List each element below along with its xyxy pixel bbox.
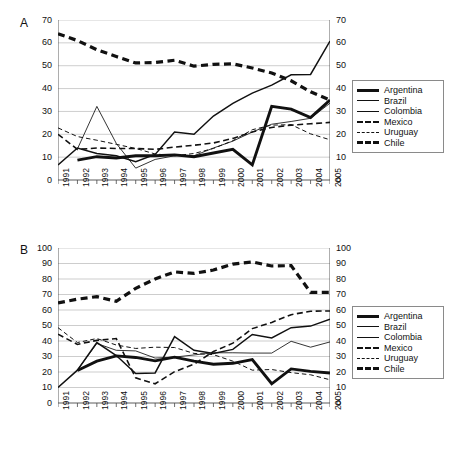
- legend-item-brazil[interactable]: Brazil: [357, 322, 438, 333]
- x-tick-label: 1997: [179, 168, 188, 187]
- x-tick-label: 1993: [101, 168, 110, 187]
- legend-item-chile[interactable]: Chile: [357, 138, 438, 149]
- series-line-uruguay: [58, 125, 330, 156]
- legend-item-label: Uruguay: [384, 353, 418, 363]
- y-tick-label-left: 50: [22, 61, 52, 70]
- y-tick-label-left: 90: [22, 259, 52, 268]
- x-tick-label: 1999: [218, 168, 227, 187]
- legend-item-colombia[interactable]: Colombia: [357, 106, 438, 117]
- y-tick-label-left: 30: [22, 352, 52, 361]
- legend-item-label: Brazil: [384, 96, 407, 106]
- x-tick-label: 2002: [276, 391, 285, 410]
- x-tick-label: 2001: [256, 168, 265, 187]
- x-tick-label: 2003: [295, 391, 304, 410]
- legend-swatch-icon: [357, 106, 379, 116]
- legend-swatch-icon: [357, 117, 379, 127]
- x-tick-label: 1994: [120, 391, 129, 410]
- x-tick-label: 2004: [315, 168, 324, 187]
- legend-swatch-icon: [357, 138, 379, 148]
- x-tick-label: 1999: [218, 391, 227, 410]
- legend-swatch-icon: [357, 364, 379, 374]
- legend-swatch-icon: [357, 85, 379, 95]
- y-tick-label-right: 10: [336, 153, 366, 162]
- legend-item-argentina[interactable]: Argentina: [357, 311, 438, 322]
- series-line-mexico: [58, 311, 330, 384]
- series-line-brazil: [58, 41, 330, 165]
- x-tick-label: 1996: [159, 391, 168, 410]
- panel-b-svg: [58, 248, 330, 409]
- legend-item-argentina[interactable]: Argentina: [357, 85, 438, 96]
- x-tick-label: 1991: [62, 391, 71, 410]
- y-tick-label-left: 100: [22, 244, 52, 253]
- y-tick-label-right: 60: [336, 38, 366, 47]
- x-tick-label: 2000: [237, 391, 246, 410]
- y-tick-label-right: 80: [336, 275, 366, 284]
- x-tick-label: 2003: [295, 168, 304, 187]
- x-tick-label: 1992: [82, 168, 91, 187]
- y-tick-label-right: 70: [336, 290, 366, 299]
- x-tick-label: 1995: [140, 391, 149, 410]
- x-tick-label: 1992: [82, 391, 91, 410]
- legend-item-chile[interactable]: Chile: [357, 364, 438, 375]
- panel-a-legend: ArgentinaBrazilColombiaMexicoUruguayChil…: [352, 80, 444, 153]
- legend-swatch-icon: [357, 127, 379, 137]
- legend-swatch-icon: [357, 322, 379, 332]
- y-tick-label-left: 80: [22, 275, 52, 284]
- y-tick-label-left: 0: [22, 176, 52, 185]
- y-tick-label-left: 60: [22, 38, 52, 47]
- legend-item-label: Mexico: [384, 343, 413, 353]
- legend-item-label: Brazil: [384, 322, 407, 332]
- series-line-mexico: [58, 122, 330, 149]
- y-tick-label-left: 50: [22, 321, 52, 330]
- x-tick-label: 2004: [315, 391, 324, 410]
- y-tick-label-left: 70: [22, 16, 52, 25]
- legend-item-colombia[interactable]: Colombia: [357, 332, 438, 343]
- x-tick-label: 1991: [62, 168, 71, 187]
- legend-item-label: Uruguay: [384, 127, 418, 137]
- y-tick-label-left: 30: [22, 107, 52, 116]
- x-tick-label: 1998: [198, 391, 207, 410]
- legend-item-uruguay[interactable]: Uruguay: [357, 353, 438, 364]
- legend-item-label: Colombia: [384, 106, 422, 116]
- figure-root: A 010203040506070 010203040506070 199119…: [0, 0, 452, 455]
- legend-swatch-icon: [357, 332, 379, 342]
- y-tick-label-left: 20: [22, 368, 52, 377]
- y-tick-label-right: 100: [336, 244, 366, 253]
- x-tick-label: 1995: [140, 168, 149, 187]
- panel-b: B 0102030405060708090100 010203040506070…: [0, 228, 452, 453]
- y-tick-label-left: 20: [22, 130, 52, 139]
- panel-b-legend: ArgentinaBrazilColombiaMexicoUruguayChil…: [352, 306, 444, 379]
- legend-item-brazil[interactable]: Brazil: [357, 96, 438, 107]
- y-tick-label-left: 10: [22, 153, 52, 162]
- legend-item-uruguay[interactable]: Uruguay: [357, 127, 438, 138]
- panel-b-plot-area: [58, 248, 330, 403]
- x-tick-label: 2005: [334, 168, 343, 187]
- x-tick-label: 1994: [120, 168, 129, 187]
- x-tick-label: 1998: [198, 168, 207, 187]
- series-line-argentina: [77, 356, 330, 384]
- legend-swatch-icon: [357, 311, 379, 321]
- x-tick-label: 1997: [179, 391, 188, 410]
- legend-item-label: Chile: [384, 138, 405, 148]
- legend-item-label: Argentina: [384, 311, 423, 321]
- legend-swatch-icon: [357, 353, 379, 363]
- legend-item-mexico[interactable]: Mexico: [357, 343, 438, 354]
- legend-item-label: Mexico: [384, 117, 413, 127]
- legend-item-label: Colombia: [384, 332, 422, 342]
- x-tick-label: 2002: [276, 168, 285, 187]
- x-tick-label: 2005: [334, 391, 343, 410]
- legend-item-label: Chile: [384, 364, 405, 374]
- y-tick-label-left: 40: [22, 337, 52, 346]
- y-tick-label-right: 70: [336, 16, 366, 25]
- x-tick-label: 2001: [256, 391, 265, 410]
- y-tick-label-left: 0: [22, 399, 52, 408]
- x-tick-label: 1996: [159, 168, 168, 187]
- legend-swatch-icon: [357, 96, 379, 106]
- legend-swatch-icon: [357, 343, 379, 353]
- y-tick-label-right: 90: [336, 259, 366, 268]
- x-tick-label: 2000: [237, 168, 246, 187]
- panel-a: A 010203040506070 010203040506070 199119…: [0, 2, 452, 227]
- y-tick-label-right: 50: [336, 61, 366, 70]
- x-tick-label: 1993: [101, 391, 110, 410]
- legend-item-mexico[interactable]: Mexico: [357, 117, 438, 128]
